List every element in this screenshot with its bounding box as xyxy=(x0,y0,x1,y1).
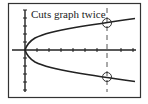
annotation-label: Cuts graph twice xyxy=(31,8,106,20)
graph-figure: Cuts graph twice xyxy=(0,0,148,104)
